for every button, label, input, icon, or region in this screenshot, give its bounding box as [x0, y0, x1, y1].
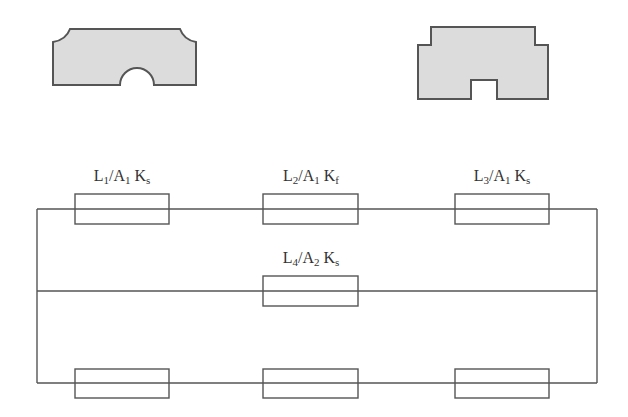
label-r2-A-sub: 1 — [314, 174, 320, 186]
label-r3-K: K — [514, 167, 526, 184]
label-r2-K-sub: f — [335, 174, 339, 186]
diagram-canvas — [0, 0, 628, 417]
label-r4-L: L — [283, 249, 293, 266]
label-r4-A-sub: 2 — [314, 256, 320, 268]
label-r2-K: K — [324, 167, 336, 184]
profile-right-shape — [418, 27, 548, 99]
label-r3-A-sub: 1 — [505, 174, 511, 186]
label-r2-A: A — [303, 167, 315, 184]
label-r4-K-sub: s — [335, 256, 339, 268]
label-r4: L4/A2 Ks — [283, 250, 340, 266]
label-r3: L3/A1 Ks — [474, 168, 531, 184]
label-r3-K-sub: s — [526, 174, 530, 186]
label-r1: L1/A1 Ks — [94, 168, 151, 184]
label-r1-L: L — [94, 167, 104, 184]
label-r3-A: A — [493, 167, 505, 184]
label-r2-L: L — [283, 167, 293, 184]
label-r1-K: K — [134, 167, 146, 184]
label-r3-L: L — [474, 167, 484, 184]
profile-left-shape — [53, 29, 196, 85]
label-r1-A-sub: 1 — [125, 174, 131, 186]
label-r4-A: A — [302, 249, 314, 266]
label-r2: L2/A1 Kf — [283, 168, 339, 184]
label-r1-K-sub: s — [146, 174, 150, 186]
label-r4-K: K — [323, 249, 335, 266]
label-r1-A: A — [113, 167, 125, 184]
